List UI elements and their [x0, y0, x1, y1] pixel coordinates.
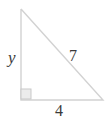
hypotenuse-label: 7: [69, 48, 77, 64]
triangle-outline: [21, 9, 103, 100]
right-triangle-figure: y 7 4: [0, 0, 109, 126]
right-angle-marker-icon: [21, 89, 31, 99]
base-leg-label: 4: [55, 103, 63, 119]
vertical-leg-label: y: [8, 49, 16, 66]
